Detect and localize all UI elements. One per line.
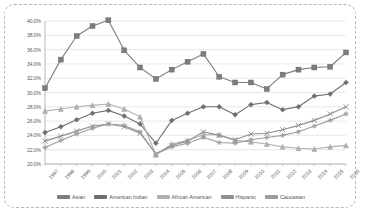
legend-item-caucasian[interactable]: Caucasian	[265, 194, 305, 200]
data-point	[217, 74, 222, 79]
y-tick-label: 26.0%	[13, 118, 41, 124]
data-point	[201, 51, 206, 56]
legend-swatch-icon	[221, 195, 234, 199]
y-tick-label: 22.0%	[13, 147, 41, 153]
y-tick-label: 24.0%	[13, 132, 41, 138]
y-tick-label: 32.0%	[13, 75, 41, 81]
y-tick-label: 30.0%	[13, 90, 41, 96]
data-point	[328, 64, 333, 69]
data-point	[280, 72, 285, 77]
data-point	[344, 50, 349, 55]
legend-swatch-icon	[157, 195, 170, 199]
data-point	[90, 24, 95, 29]
y-tick-label: 40.0%	[13, 18, 41, 24]
legend-item-hispanic[interactable]: Hispanic	[221, 194, 256, 200]
y-tick-label: 20.0%	[13, 161, 41, 167]
legend-label: American Indian	[109, 194, 147, 200]
legend-swatch-icon	[265, 195, 278, 199]
y-tick-label: 38.0%	[13, 32, 41, 38]
data-point	[43, 86, 48, 91]
legend-swatch-icon	[94, 195, 107, 199]
data-point	[74, 34, 79, 39]
data-point	[185, 59, 190, 64]
legend-swatch-icon	[57, 195, 70, 199]
chart-frame: 40.0%38.0%36.0%34.0%32.0%30.0%28.0%26.0%…	[4, 4, 356, 208]
data-point	[106, 18, 111, 23]
data-point	[296, 67, 301, 72]
data-point	[233, 80, 238, 85]
legend-label: Hispanic	[236, 194, 256, 200]
y-tick-label: 28.0%	[13, 104, 41, 110]
plot-area: 40.0%38.0%36.0%34.0%32.0%30.0%28.0%26.0%…	[5, 5, 357, 209]
data-point	[312, 65, 317, 70]
y-tick-label: 36.0%	[13, 47, 41, 53]
data-point	[122, 48, 127, 53]
legend-item-american-indian[interactable]: American Indian	[94, 194, 147, 200]
y-tick-label: 34.0%	[13, 61, 41, 67]
legend-label: Asian	[72, 194, 85, 200]
data-point	[264, 86, 269, 91]
data-point	[153, 76, 158, 81]
legend-label: Caucasian	[280, 194, 305, 200]
data-point	[58, 57, 63, 62]
data-point	[248, 80, 253, 85]
chart-legend: AsianAmerican IndianAfrican AmericanHisp…	[5, 194, 357, 200]
legend-item-african-american[interactable]: African American	[157, 194, 212, 200]
legend-item-asian[interactable]: Asian	[57, 194, 85, 200]
data-point	[138, 65, 143, 70]
data-point	[169, 67, 174, 72]
legend-label: African American	[172, 194, 212, 200]
